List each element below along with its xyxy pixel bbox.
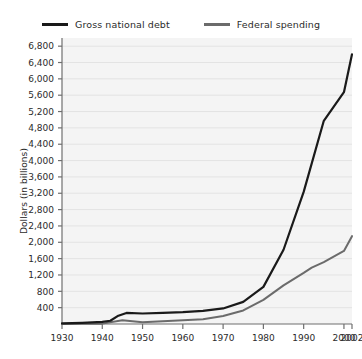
x-tick-label: 1960 (171, 333, 194, 343)
y-tick-label: 6,800 (28, 41, 54, 51)
y-axis-ticks: 4008001,2001,6002,0002,4002,8003,2003,60… (28, 41, 62, 312)
x-tick-label: 1940 (91, 333, 114, 343)
y-tick-label: 5,200 (28, 107, 54, 117)
y-tick-label: 3,600 (28, 172, 54, 182)
y-tick-label: 6,400 (28, 58, 54, 68)
x-tick-label: 1970 (212, 333, 235, 343)
x-tick-label: 1990 (292, 333, 315, 343)
y-tick-label: 5,600 (28, 90, 54, 100)
y-tick-label: 2,400 (28, 221, 54, 231)
y-tick-label: 6,000 (28, 74, 54, 84)
y-tick-label: 4,400 (28, 139, 54, 149)
x-tick-label: 1950 (131, 333, 154, 343)
y-tick-label: 800 (37, 287, 54, 297)
y-tick-label: 1,200 (28, 270, 54, 280)
x-tick-label: 2002 (341, 333, 362, 343)
plot-background (62, 38, 352, 324)
y-tick-label: 1,600 (28, 254, 54, 264)
y-tick-label: 2,800 (28, 205, 54, 215)
y-tick-label: 4,800 (28, 123, 54, 133)
y-tick-label: 400 (37, 303, 54, 313)
chart-container: Gross national debt Federal spending Dol… (0, 0, 362, 359)
x-tick-label: 1930 (51, 333, 74, 343)
plot-area: 4008001,2001,6002,0002,4002,8003,2003,60… (0, 0, 362, 359)
y-tick-label: 4,000 (28, 156, 54, 166)
y-tick-label: 3,200 (28, 188, 54, 198)
x-tick-label: 1980 (252, 333, 275, 343)
y-tick-label: 2,000 (28, 237, 54, 247)
x-axis-ticks: 193019401950196019701980199020002002 (51, 324, 362, 343)
chart-svg: 4008001,2001,6002,0002,4002,8003,2003,60… (0, 0, 362, 359)
